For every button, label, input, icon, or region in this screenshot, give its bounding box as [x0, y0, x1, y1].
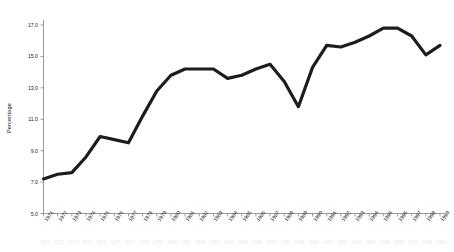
faint-label: 1984 — [224, 240, 234, 245]
faint-label: 1986 — [252, 240, 262, 245]
y-axis-tick-label: 7.0 — [16, 179, 38, 185]
data-series-line — [44, 28, 441, 179]
chart-axes — [41, 20, 445, 217]
faint-label: 1995 — [379, 240, 389, 245]
faint-label: 1989 — [294, 240, 304, 245]
faint-label: 1978 — [139, 240, 149, 245]
faint-label: 1975 — [96, 240, 106, 245]
faint-label: 1987 — [266, 240, 276, 245]
faint-label: 1996 — [394, 240, 404, 245]
y-axis-tick-label: 17.0 — [16, 22, 38, 28]
line-chart: Percentage 17.015.013.011.09.07.05.0 197… — [0, 0, 454, 252]
faint-label: 1994 — [365, 240, 375, 245]
faint-label: 1971 — [40, 240, 50, 245]
faint-label: 1990 — [309, 240, 319, 245]
faint-label: 1979 — [153, 240, 163, 245]
faint-label: 1977 — [124, 240, 134, 245]
faint-label: 1972 — [54, 240, 64, 245]
faint-label: 1982 — [195, 240, 205, 245]
faint-label: 1976 — [110, 240, 120, 245]
faint-label: 1998 — [422, 240, 432, 245]
faint-label: 1992 — [337, 240, 347, 245]
faint-label: 1999 — [436, 240, 446, 245]
faint-label: 1991 — [323, 240, 333, 245]
y-axis-tick-label: 9.0 — [16, 148, 38, 154]
faint-label: 1985 — [238, 240, 248, 245]
faint-label: 1993 — [351, 240, 361, 245]
faint-label: 1980 — [167, 240, 177, 245]
faint-label: 1988 — [280, 240, 290, 245]
y-axis-tick-label: 5.0 — [16, 211, 38, 217]
y-axis-tick-label: 11.0 — [16, 116, 38, 122]
faint-label: 1997 — [408, 240, 418, 245]
faint-label: 1973 — [68, 240, 78, 245]
y-axis-tick-label: 13.0 — [16, 85, 38, 91]
faint-label: 1981 — [181, 240, 191, 245]
y-axis-tick-label: 15.0 — [16, 53, 38, 59]
faint-label: 1974 — [82, 240, 92, 245]
faint-label: 1983 — [209, 240, 219, 245]
